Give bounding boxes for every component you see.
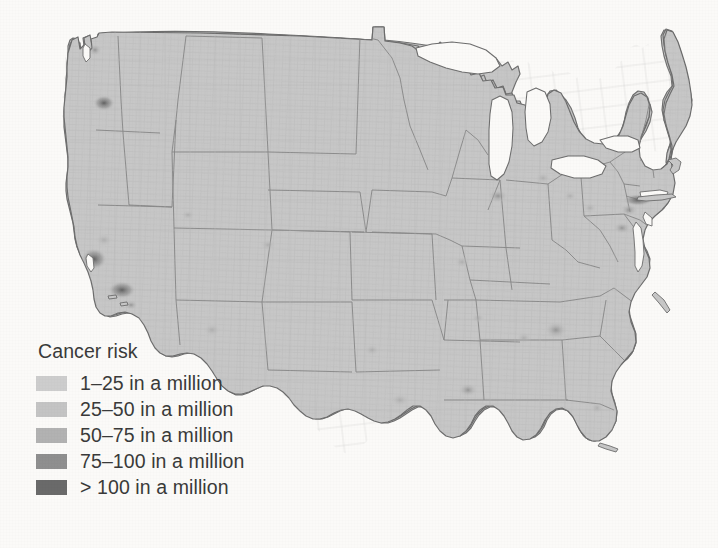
hotspot-gulf-coast-la [458,383,478,397]
cancer-risk-map-figure: Cancer risk 1–25 in a million 25–50 in a… [0,0,718,548]
legend-swatch-50-75 [36,428,67,443]
legend-title: Cancer risk [38,340,245,363]
hotspot-philadelphia [620,204,638,216]
hotspot-chicago [488,189,508,203]
hotspot-salt-lake [181,210,195,220]
legend-label-75-100: 75–100 in a million [80,450,245,473]
hotspot-pittsburgh [583,203,597,213]
legend-item: 75–100 in a million [36,448,245,474]
hotspot-detroit [535,172,551,184]
hotspot-houston [390,393,410,407]
hotspot-atlanta [544,321,568,339]
legend-item: 1–25 in a million [36,370,245,396]
legend-swatch-75-100 [36,454,67,469]
outer-banks [652,292,670,313]
legend-label-50-75: 50–75 in a million [80,424,234,447]
hotspot-st-louis [454,256,470,268]
map-legend: Cancer risk 1–25 in a million 25–50 in a… [36,340,245,500]
legend-swatch-over-100 [36,480,67,495]
florida-keys [598,443,618,452]
hotspot-denver [260,239,276,251]
legend-label-25-50: 25–50 in a million [80,398,234,421]
hotspot-sacramento [95,233,113,247]
legend-label-over-100: > 100 in a million [80,476,229,499]
legend-item: > 100 in a million [36,474,245,500]
hotspot-tampa [590,402,604,414]
legend-item: 25–50 in a million [36,396,245,422]
hotspot-baltimore-dc [613,222,631,234]
hotspot-boston [650,152,666,164]
hotspot-memphis [471,313,485,323]
legend-swatch-25-50 [36,402,67,417]
legend-item: 50–75 in a million [36,422,245,448]
hotspot-phoenix [203,323,221,337]
hotspot-minneapolis [0,145,7,155]
hotspot-portland-or [93,95,115,111]
hotspot-birmingham [516,332,532,344]
legend-swatch-1-25 [36,376,67,391]
hotspot-miami [609,424,623,436]
hotspot-dallas [364,344,380,356]
hotspot-cleveland [563,191,577,201]
legend-label-1-25: 1–25 in a million [80,372,223,395]
